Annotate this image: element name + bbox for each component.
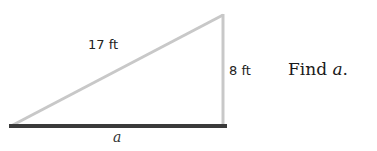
question-suffix: . <box>343 59 348 79</box>
hypotenuse <box>11 15 223 126</box>
hypotenuse-label: 17 ft <box>88 37 118 52</box>
vertical-leg-label: 8 ft <box>229 63 251 78</box>
base-label: a <box>113 129 121 145</box>
question-text: Find a. <box>288 59 348 79</box>
question-prefix: Find <box>288 59 332 79</box>
question-variable: a <box>332 59 342 79</box>
